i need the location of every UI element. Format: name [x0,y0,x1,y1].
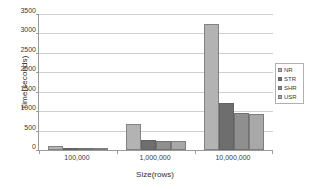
y-tick-label: 0 [12,143,36,150]
bar[interactable] [171,141,186,150]
y-tick-label: 1000 [12,104,36,111]
legend-swatch-icon [278,77,282,81]
legend-item-nr[interactable]: NR [278,66,302,74]
x-tick-label: 1,000,000 [116,154,194,162]
legend-item-usr[interactable]: USR [278,93,302,101]
legend-label: USR [284,94,297,100]
x-axis-tick-labels: 100,0001,000,00010,000,000 [38,154,272,166]
bar[interactable] [234,113,249,150]
bar[interactable] [141,140,156,150]
bar[interactable] [78,148,93,150]
bar[interactable] [48,146,63,150]
y-tick-label: 3000 [12,26,36,33]
bar[interactable] [156,141,171,150]
bar[interactable] [219,103,234,150]
x-tick-label: 100,000 [38,154,116,162]
plot-area [38,14,273,151]
legend-swatch-icon [278,86,282,90]
bar[interactable] [126,124,141,150]
bar[interactable] [249,114,264,150]
bar-group [204,14,265,150]
bar-group [48,14,109,150]
x-axis-title: Size(rows) [38,170,272,179]
bar-chart: Time(seconds) 05001000150020002500300035… [0,0,309,189]
bar[interactable] [204,24,219,150]
y-tick-label: 2000 [12,65,36,72]
legend-item-shr[interactable]: SHR [278,84,302,92]
bars-layer [39,14,273,150]
y-tick-label: 500 [12,123,36,130]
y-axis-tick-labels: 0500100015002000250030003500 [12,10,36,152]
legend-label: NR [284,67,293,73]
y-tick-label: 3500 [12,7,36,14]
bar-group [126,14,187,150]
y-tick-label: 2500 [12,45,36,52]
x-tick-label: 10,000,000 [194,154,272,162]
y-tick-label: 1500 [12,84,36,91]
legend-swatch-icon [278,95,282,99]
x-tickmark [272,151,273,154]
bar[interactable] [63,148,78,150]
bar[interactable] [93,148,108,150]
legend: NRSTRSHRUSR [275,63,304,104]
legend-label: STR [284,76,296,82]
legend-item-str[interactable]: STR [278,75,302,83]
legend-label: SHR [284,85,297,91]
legend-swatch-icon [278,68,282,72]
